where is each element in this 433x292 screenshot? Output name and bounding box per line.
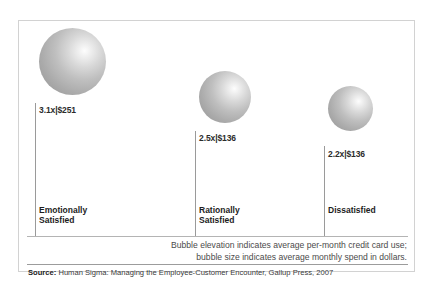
bubble-dissatisfied[interactable] xyxy=(328,86,373,131)
category-label-dissatisfied: Dissatisfied xyxy=(328,206,376,216)
source-divider xyxy=(27,264,408,265)
bubble-group-rationally-satisfied[interactable]: 2.5x|$136 Rationally Satisfied xyxy=(179,21,299,217)
source-citation: Human Sigma: Managing the Employee-Custo… xyxy=(56,268,333,277)
bubble-emotionally-satisfied[interactable] xyxy=(39,28,106,95)
bubble-group-emotionally-satisfied[interactable]: 3.1x|$251 Emotionally Satisfied xyxy=(34,21,154,217)
value-label-dissatisfied: 2.2x|$136 xyxy=(328,149,365,159)
value-label-emotionally-satisfied: 3.1x|$251 xyxy=(39,105,76,115)
caption-line-1: Bubble elevation indicates average per-m… xyxy=(59,240,407,252)
bubble-plot-area: 3.1x|$251 Emotionally Satisfied 2.5x|$13… xyxy=(19,21,416,217)
stem-line-dissatisfied xyxy=(324,146,325,236)
stem-line-rationally-satisfied xyxy=(195,131,196,236)
category-label-rationally-satisfied: Rationally Satisfied xyxy=(199,206,240,225)
axis-baseline xyxy=(27,236,408,237)
chart-caption: Bubble elevation indicates average per-m… xyxy=(59,240,407,263)
value-label-rationally-satisfied: 2.5x|$136 xyxy=(199,133,236,143)
stem-line-emotionally-satisfied xyxy=(35,103,36,236)
caption-line-2: bubble size indicates average monthly sp… xyxy=(59,252,407,264)
bubble-rationally-satisfied[interactable] xyxy=(199,71,251,123)
source-label: Source: xyxy=(28,268,56,277)
source-line: Source: Human Sigma: Managing the Employ… xyxy=(28,268,333,277)
bubble-group-dissatisfied[interactable]: 2.2x|$136 Dissatisfied xyxy=(309,21,416,217)
chart-figure: 3.1x|$251 Emotionally Satisfied 2.5x|$13… xyxy=(18,20,415,272)
category-label-emotionally-satisfied: Emotionally Satisfied xyxy=(39,206,87,225)
